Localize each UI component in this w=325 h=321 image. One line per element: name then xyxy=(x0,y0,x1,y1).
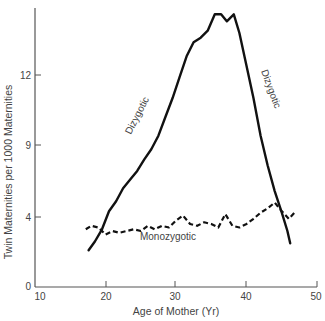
y-axis-title: Twin Maternities per 1000 Maternities xyxy=(2,85,14,260)
x-tick-10: 10 xyxy=(34,291,46,302)
x-axis: 10 20 30 40 50 xyxy=(34,281,322,302)
monozygotic-curve xyxy=(86,203,296,235)
monozygotic-label: Monozygotic xyxy=(140,231,196,242)
dizygotic-curve xyxy=(89,14,291,250)
y-tick-4: 4 xyxy=(25,212,31,223)
y-tick-9: 9 xyxy=(25,140,31,151)
dizygotic-label-left: Dizygotic xyxy=(123,95,151,136)
x-tick-50: 50 xyxy=(310,291,322,302)
y-tick-12: 12 xyxy=(20,70,32,81)
x-tick-20: 20 xyxy=(100,291,112,302)
x-axis-title: Age of Mother (Yr) xyxy=(133,305,219,317)
y-tick-0: 0 xyxy=(25,281,31,292)
dizygotic-label-right: Dizygotic xyxy=(259,68,283,110)
twin-maternities-chart: 0 4 9 12 10 20 30 40 50 Age of Mother (Y… xyxy=(0,0,325,321)
x-tick-30: 30 xyxy=(169,291,181,302)
x-tick-40: 40 xyxy=(240,291,252,302)
y-axis: 0 4 9 12 xyxy=(20,8,41,292)
